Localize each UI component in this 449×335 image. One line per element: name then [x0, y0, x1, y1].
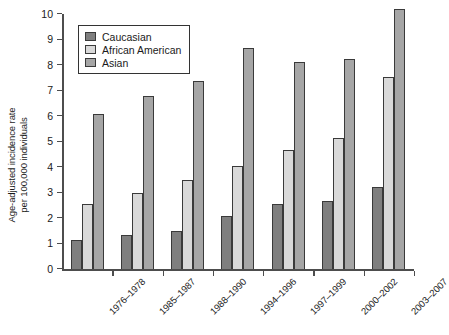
y-tick-label: 3	[47, 186, 53, 198]
bar-caucasian	[322, 201, 333, 270]
bar-group	[364, 14, 414, 269]
bar-caucasian	[221, 216, 232, 270]
y-tick-label: 7	[47, 84, 53, 96]
x-axis-label: 2003–2007	[409, 276, 449, 317]
y-axis-title-line-2: per 100,000 individuals	[17, 117, 28, 212]
x-tick	[163, 271, 164, 276]
bar-african-american	[182, 180, 193, 269]
bar-african-american	[283, 150, 294, 270]
y-tick-label: 1	[47, 237, 53, 249]
legend-item-african-american: African American	[85, 43, 181, 56]
legend-label-caucasian: Caucasian	[102, 31, 152, 43]
x-tick	[414, 271, 415, 276]
bar-asian	[143, 96, 154, 269]
x-axis-label: 1997–1999	[308, 276, 349, 317]
y-tick-label: 5	[47, 135, 53, 147]
bar-asian	[193, 81, 204, 270]
x-tick	[263, 271, 264, 276]
bar-caucasian	[272, 204, 283, 269]
bar-caucasian	[171, 231, 182, 269]
x-axis-label: 2000–2002	[358, 276, 399, 317]
y-tick-label: 4	[47, 161, 53, 173]
y-tick-label: 6	[47, 110, 53, 122]
legend: Caucasian African American Asian	[78, 25, 190, 74]
x-axis-label: 1976–1978	[107, 276, 148, 317]
bar-asian	[294, 62, 305, 270]
x-tick	[313, 271, 314, 276]
bar-group	[263, 14, 313, 269]
bar-african-american	[132, 193, 143, 270]
bar-group	[313, 14, 363, 269]
bar-caucasian	[121, 235, 132, 269]
bar-african-american	[333, 138, 344, 269]
y-tick-label: 2	[47, 212, 53, 224]
x-axis-label: 1994–1996	[258, 276, 299, 317]
y-tick-label: 10	[41, 8, 53, 20]
legend-label-asian: Asian	[102, 57, 128, 69]
legend-swatch-icon-asian	[85, 58, 96, 67]
bar-african-american	[82, 204, 93, 269]
legend-item-caucasian: Caucasian	[85, 30, 181, 43]
x-tick	[112, 271, 113, 276]
legend-swatch-icon-african-american	[85, 45, 96, 54]
x-tick	[213, 271, 214, 276]
x-axis-line	[62, 269, 414, 271]
x-tick	[364, 271, 365, 276]
bar-asian	[243, 48, 254, 270]
bar-african-american	[383, 77, 394, 270]
bar-asian	[93, 114, 104, 270]
legend-swatch-icon-caucasian	[85, 32, 96, 41]
bar-african-american	[232, 166, 243, 269]
bar-caucasian	[71, 240, 82, 269]
y-tick-label: 8	[47, 59, 53, 71]
bar-asian	[344, 59, 355, 269]
y-tick-label: 0	[47, 263, 53, 275]
bar-caucasian	[372, 187, 383, 270]
bar-group	[213, 14, 263, 269]
y-axis-title: Age-adjusted incidence rate per 100,000 …	[2, 60, 32, 270]
x-axis-label: 1988–1990	[207, 276, 248, 317]
legend-label-african-american: African American	[102, 44, 181, 56]
y-axis-title-line-1: Age-adjusted incidence rate	[6, 107, 17, 222]
y-tick-label: 9	[47, 33, 53, 45]
legend-item-asian: Asian	[85, 56, 181, 69]
bar-asian	[394, 9, 405, 269]
x-axis-label: 1985–1987	[157, 276, 198, 317]
